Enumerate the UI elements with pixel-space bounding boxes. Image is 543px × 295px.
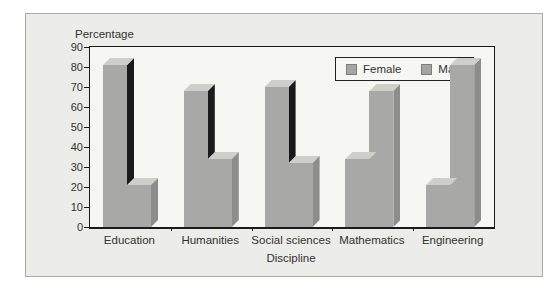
category-label: Humanities bbox=[181, 234, 239, 246]
bar-front-face bbox=[265, 87, 289, 227]
bar-side-face bbox=[232, 152, 239, 227]
bar-group bbox=[90, 47, 171, 227]
y-tick-mark bbox=[84, 107, 89, 108]
y-tick-label: 30 bbox=[57, 160, 83, 174]
x-tick-mark bbox=[413, 227, 414, 231]
category-label: Education bbox=[104, 234, 155, 246]
y-tick-mark bbox=[84, 187, 89, 188]
bar-male bbox=[127, 185, 151, 227]
bar-female bbox=[103, 65, 127, 227]
bar-front-face bbox=[450, 65, 474, 227]
bar-female bbox=[345, 159, 369, 227]
y-tick-label: 70 bbox=[57, 80, 83, 94]
bar-front-face bbox=[184, 91, 208, 227]
bar-group bbox=[413, 47, 494, 227]
y-tick-mark bbox=[84, 147, 89, 148]
y-tick-mark bbox=[84, 67, 89, 68]
y-tick-label: 80 bbox=[57, 60, 83, 74]
category-label: Engineering bbox=[422, 234, 483, 246]
bar-male bbox=[450, 65, 474, 227]
category-label: Social sciences bbox=[251, 234, 330, 246]
bar-female bbox=[184, 91, 208, 227]
x-tick-mark bbox=[171, 227, 172, 231]
bar-front-face bbox=[345, 159, 369, 227]
bar-male bbox=[369, 91, 393, 227]
bar-side-face bbox=[151, 178, 158, 227]
x-tick-mark bbox=[332, 227, 333, 231]
y-tick-label: 0 bbox=[57, 220, 83, 234]
x-tick-mark bbox=[252, 227, 253, 231]
y-tick-mark bbox=[84, 167, 89, 168]
y-tick-label: 20 bbox=[57, 180, 83, 194]
bar-front-face bbox=[289, 163, 313, 227]
y-tick-mark bbox=[84, 127, 89, 128]
chart-panel: Percentage Female Male 01020304050607080… bbox=[25, 13, 543, 277]
plot-area: Female Male 0102030405060708090 bbox=[89, 46, 495, 229]
bar-front-face bbox=[127, 185, 151, 227]
bar-female bbox=[265, 87, 289, 227]
bar-group bbox=[252, 47, 333, 227]
x-axis-label: Discipline bbox=[266, 252, 315, 264]
y-axis-title: Percentage bbox=[75, 28, 134, 40]
y-tick-mark bbox=[84, 207, 89, 208]
y-tick-label: 10 bbox=[57, 200, 83, 214]
bar-side-face bbox=[393, 84, 400, 227]
bar-front-face bbox=[103, 65, 127, 227]
y-tick-mark bbox=[84, 87, 89, 88]
y-tick-label: 40 bbox=[57, 140, 83, 154]
bar-group bbox=[332, 47, 413, 227]
bar-side-face bbox=[313, 156, 320, 227]
bar-side-face bbox=[474, 58, 481, 227]
category-label: Mathematics bbox=[339, 234, 404, 246]
bar-male bbox=[289, 163, 313, 227]
y-tick-label: 60 bbox=[57, 100, 83, 114]
bar-group bbox=[171, 47, 252, 227]
y-tick-label: 50 bbox=[57, 120, 83, 134]
y-tick-mark bbox=[84, 47, 89, 48]
bar-front-face bbox=[369, 91, 393, 227]
bar-front-face bbox=[208, 159, 232, 227]
y-tick-label: 90 bbox=[57, 40, 83, 54]
bar-female bbox=[426, 185, 450, 227]
bar-front-face bbox=[426, 185, 450, 227]
y-tick-mark bbox=[84, 227, 89, 228]
bar-male bbox=[208, 159, 232, 227]
